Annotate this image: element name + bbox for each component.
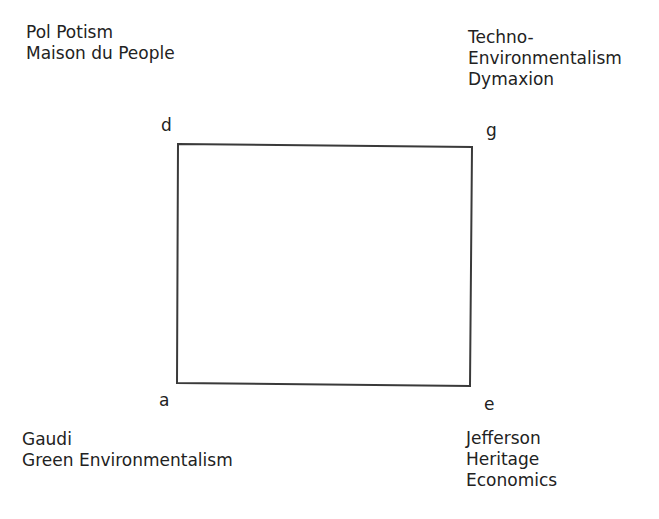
label-bottom-left-line-2: Green Environmentalism xyxy=(22,450,233,471)
label-top-right-line-1: Techno- xyxy=(468,27,622,48)
label-top-left-line-2: Maison du People xyxy=(26,43,175,64)
corner-letter-a: a xyxy=(159,390,169,410)
label-bottom-left: Gaudi Green Environmentalism xyxy=(22,429,233,471)
square-outline xyxy=(177,144,472,386)
label-top-left-line-1: Pol Potism xyxy=(26,22,175,43)
label-bottom-left-line-1: Gaudi xyxy=(22,429,233,450)
corner-letter-g: g xyxy=(486,120,497,140)
label-top-left: Pol Potism Maison du People xyxy=(26,22,175,64)
label-top-right-line-3: Dymaxion xyxy=(468,69,622,90)
corner-letter-d: d xyxy=(161,115,172,135)
label-bottom-right-line-3: Economics xyxy=(466,470,557,491)
label-top-right-line-2: Environmentalism xyxy=(468,48,622,69)
label-bottom-right-line-2: Heritage xyxy=(466,449,557,470)
label-top-right: Techno- Environmentalism Dymaxion xyxy=(468,27,622,90)
label-bottom-right: Jefferson Heritage Economics xyxy=(466,428,557,491)
corner-letter-e: e xyxy=(484,394,494,414)
label-bottom-right-line-1: Jefferson xyxy=(466,428,557,449)
